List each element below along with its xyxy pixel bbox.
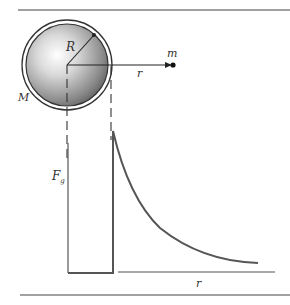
radius-endpoint bbox=[92, 33, 96, 37]
point-mass-label: m bbox=[167, 47, 177, 60]
gravity-shell-diagram: R M m r Fg r bbox=[0, 0, 290, 305]
r-axis-label: r bbox=[196, 277, 202, 290]
force-curve bbox=[68, 131, 258, 273]
point-mass-dot bbox=[170, 62, 175, 67]
force-axis-label: Fg bbox=[51, 169, 65, 185]
distance-label: r bbox=[137, 67, 143, 80]
shell-mass-label: M bbox=[17, 91, 30, 104]
radius-label: R bbox=[65, 40, 75, 54]
